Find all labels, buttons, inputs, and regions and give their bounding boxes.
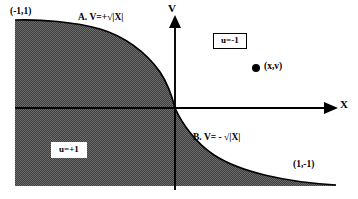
x-axis-label: X — [340, 99, 348, 110]
v-axis-label: V — [168, 3, 176, 14]
math-figure: V X (-1,1) (1,-1) A. V=+√|X| B. V= - √|X… — [0, 0, 358, 199]
region-label-u-positive: u=+1 — [51, 142, 87, 158]
sample-point-label: (x,v) — [264, 62, 282, 72]
coordinate-label-bottom-right: (1,-1) — [293, 160, 314, 170]
sample-point-dot — [252, 64, 260, 72]
region-label-u-negative: u=-1 — [213, 33, 247, 49]
curve-a-equation-label: A. V=+√|X| — [78, 13, 123, 23]
curve-b-equation-label: B. V= - √|X| — [193, 133, 240, 143]
coordinate-label-top-left: (-1,1) — [10, 7, 31, 17]
